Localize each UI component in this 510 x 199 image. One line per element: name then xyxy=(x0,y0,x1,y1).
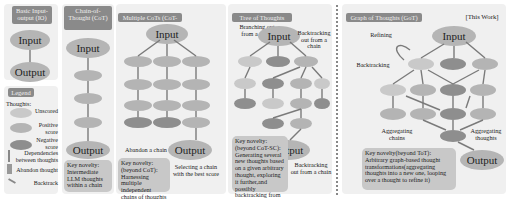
arrows-layer xyxy=(0,0,510,199)
